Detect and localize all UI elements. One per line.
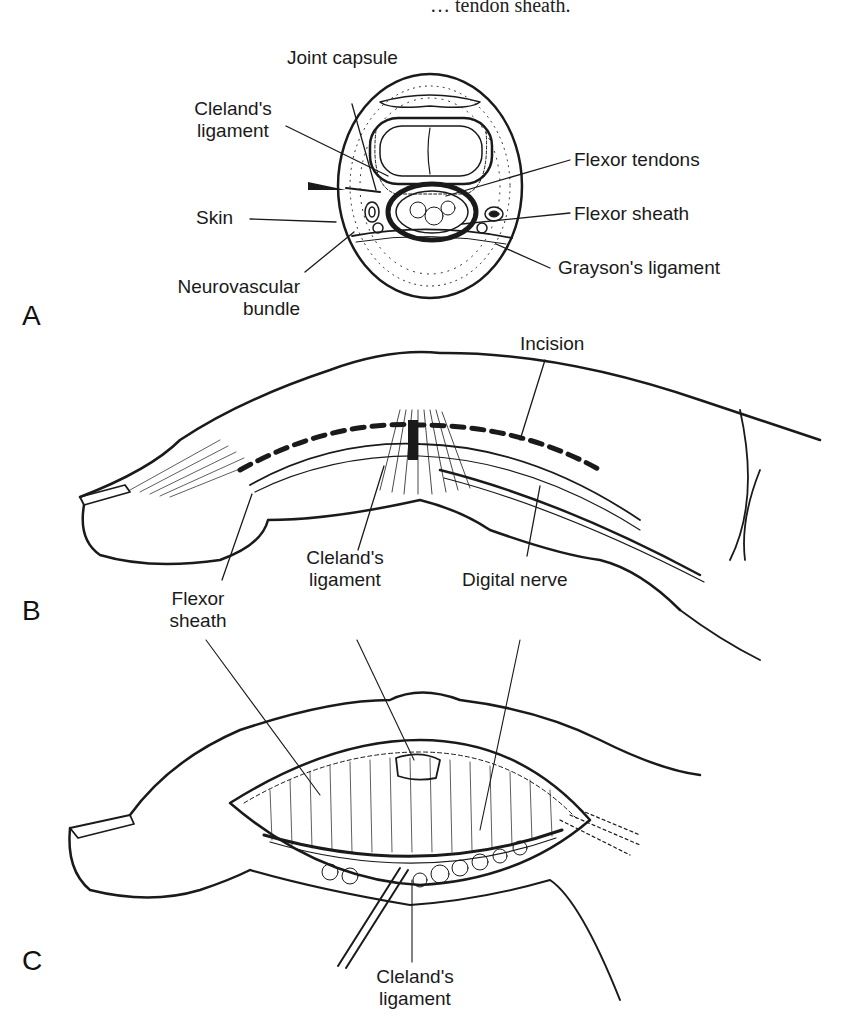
leader-flexor-tendons [446, 160, 570, 196]
illustration [0, 0, 853, 1018]
leader-neurovascular [305, 232, 354, 272]
label-joint-capsule: Joint capsule [287, 47, 398, 69]
leader-flexor-sheath-b [222, 494, 252, 580]
label-digital-nerve: Digital nerve [462, 569, 568, 591]
leader-joint-capsule [352, 104, 376, 190]
label-skin: Skin [196, 207, 233, 229]
panel-label-c: C [22, 945, 42, 977]
label-line: ligament [290, 569, 400, 591]
label-clelands-ligament-b: Cleland's ligament [290, 547, 400, 591]
label-flexor-sheath-a: Flexor sheath [574, 203, 689, 225]
label-neurovascular-bundle: Neurovascular bundle [148, 276, 300, 320]
leader-flexor-sheath-c [206, 640, 320, 795]
leader-graysons [496, 244, 550, 268]
label-line: Flexor [158, 588, 238, 610]
cross-section-diagram [250, 74, 570, 298]
label-line: ligament [178, 120, 288, 142]
label-graysons-ligament: Grayson's ligament [558, 257, 720, 279]
label-clelands-ligament-a: Cleland's ligament [178, 98, 288, 142]
label-incision: Incision [520, 333, 584, 355]
label-line: sheath [158, 610, 238, 632]
label-flexor-tendons: Flexor tendons [574, 149, 700, 171]
leader-incision [520, 360, 545, 440]
label-clelands-ligament-c: Cleland's ligament [360, 966, 470, 1010]
label-line: Cleland's [178, 98, 288, 120]
label-line: bundle [148, 298, 300, 320]
panel-label-a: A [22, 300, 41, 332]
label-flexor-sheath-b: Flexor sheath [158, 588, 238, 632]
leader-skin [250, 219, 336, 222]
label-line: Cleland's [360, 966, 470, 988]
leader-digital-nerve-c [480, 640, 520, 830]
label-line: ligament [360, 988, 470, 1010]
label-line: Cleland's [290, 547, 400, 569]
panel-label-b: B [22, 595, 41, 627]
opened-incision-diagram [69, 640, 700, 1000]
label-line: Neurovascular [148, 276, 300, 298]
